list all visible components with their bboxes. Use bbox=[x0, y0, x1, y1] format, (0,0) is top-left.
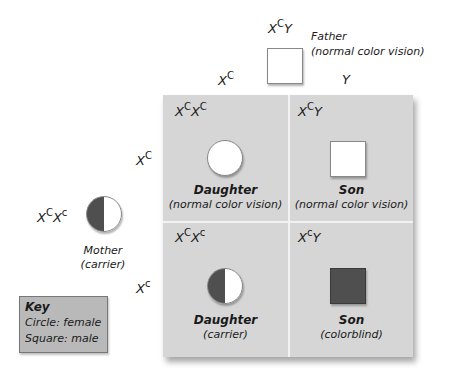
mother-subtitle: (carrier) bbox=[64, 258, 142, 272]
cell-subtitle: (colorblind) bbox=[290, 328, 413, 342]
legend-key: Key Circle: female Square: male bbox=[19, 296, 108, 353]
allele-base: X bbox=[136, 281, 145, 296]
cell-subtitle: (carrier) bbox=[163, 328, 288, 342]
cell-subtitle: (normal color vision) bbox=[290, 198, 413, 212]
male-affected-square-icon bbox=[330, 268, 366, 304]
cell-label: Daughter (normal color vision) bbox=[163, 183, 288, 212]
column-header-1: XC bbox=[218, 70, 234, 88]
allele-base: X bbox=[37, 210, 46, 225]
allele-base: X bbox=[191, 230, 200, 245]
cell-daughter-carrier: XCXc Daughter (carrier) bbox=[163, 223, 288, 357]
allele-sup: C bbox=[227, 70, 234, 81]
male-square-icon bbox=[330, 141, 366, 177]
grid-horizontal-divider bbox=[163, 221, 413, 223]
key-title: Key bbox=[25, 299, 102, 315]
row-header-2: Xc bbox=[136, 278, 150, 296]
cell-title: Son bbox=[339, 313, 364, 327]
mother-circle-icon bbox=[86, 196, 122, 232]
allele-base: Y bbox=[312, 230, 320, 245]
allele-base: X bbox=[53, 210, 62, 225]
allele-base: X bbox=[136, 153, 145, 168]
allele-sup: C bbox=[46, 207, 53, 218]
allele-sup: c bbox=[145, 278, 151, 289]
mother-title: Mother bbox=[64, 244, 142, 258]
cell-title: Daughter bbox=[194, 183, 258, 197]
cell-label: Son (normal color vision) bbox=[290, 183, 413, 212]
female-carrier-circle-icon bbox=[207, 268, 243, 304]
allele-sup: C bbox=[184, 101, 191, 112]
allele-base: X bbox=[298, 230, 307, 245]
allele-sup: C bbox=[145, 150, 152, 161]
punnett-square: XCXC Daughter (normal color vision) XCY … bbox=[163, 95, 413, 357]
allele-base: Y bbox=[342, 72, 350, 87]
key-line-square: Square: male bbox=[25, 331, 102, 347]
allele-base: X bbox=[218, 73, 227, 88]
cell-title: Daughter bbox=[194, 313, 258, 327]
cell-genotype: XCXC bbox=[175, 101, 207, 119]
cell-label: Son (colorblind) bbox=[290, 313, 413, 342]
cell-son-normal: XCY Son (normal color vision) bbox=[290, 95, 413, 221]
allele-tail: Y bbox=[284, 21, 292, 36]
allele-base: X bbox=[175, 230, 184, 245]
allele-sup: c bbox=[62, 207, 68, 218]
allele-sup: C bbox=[307, 101, 314, 112]
cell-title: Son bbox=[339, 183, 364, 197]
father-subtitle: (normal color vision) bbox=[311, 44, 424, 59]
father-square-icon bbox=[267, 48, 303, 84]
cell-genotype: XCY bbox=[298, 101, 322, 119]
allele-sup: c bbox=[200, 227, 206, 238]
allele-sup: C bbox=[277, 18, 284, 29]
allele-base: X bbox=[298, 104, 307, 119]
grid-vertical-divider bbox=[288, 95, 290, 357]
column-header-2: Y bbox=[342, 72, 350, 87]
mother-genotype: XCXc bbox=[37, 207, 67, 225]
father-label: Father (normal color vision) bbox=[311, 29, 424, 59]
cell-genotype: XcY bbox=[298, 227, 320, 245]
cell-son-colorblind: XcY Son (colorblind) bbox=[290, 223, 413, 357]
key-line-circle: Circle: female bbox=[25, 315, 102, 331]
allele-base: X bbox=[191, 104, 200, 119]
allele-sup: C bbox=[184, 227, 191, 238]
father-genotype: XCY bbox=[268, 18, 292, 36]
female-circle-icon bbox=[207, 140, 243, 176]
allele-base: X bbox=[268, 21, 277, 36]
mother-label: Mother (carrier) bbox=[64, 244, 142, 272]
allele-base: Y bbox=[314, 104, 322, 119]
cell-genotype: XCXc bbox=[175, 227, 205, 245]
allele-base: X bbox=[175, 104, 184, 119]
cell-subtitle: (normal color vision) bbox=[163, 198, 288, 212]
cell-label: Daughter (carrier) bbox=[163, 313, 288, 342]
father-title: Father bbox=[311, 29, 424, 44]
cell-daughter-normal: XCXC Daughter (normal color vision) bbox=[163, 95, 288, 221]
allele-sup: C bbox=[200, 101, 207, 112]
row-header-1: XC bbox=[136, 150, 152, 168]
